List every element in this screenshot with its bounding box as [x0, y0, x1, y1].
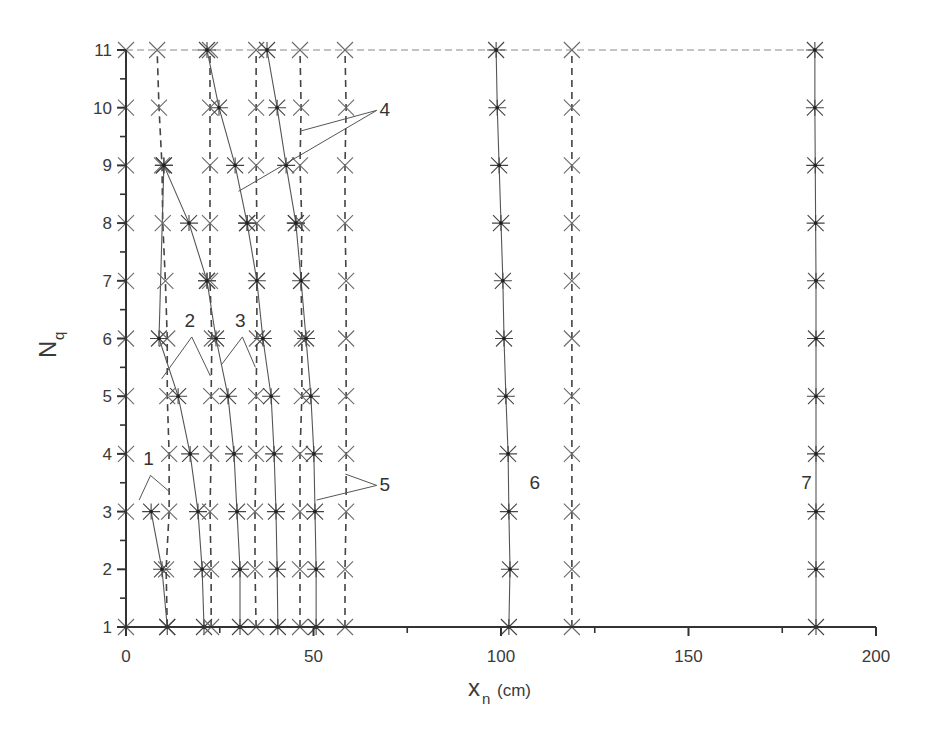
star-marker-center	[235, 510, 239, 514]
star-marker-center	[813, 164, 817, 168]
star-marker-center	[814, 568, 818, 572]
x-marker-icon	[564, 446, 580, 462]
callout-label: 6	[529, 472, 540, 493]
x-tick-label: 50	[304, 647, 323, 666]
x-marker-icon	[248, 100, 264, 116]
star-marker-center	[214, 337, 218, 341]
star-marker-center	[176, 394, 180, 398]
star-marker-center	[294, 221, 298, 225]
callout-label: 3	[235, 310, 246, 331]
star-marker-center	[314, 568, 318, 572]
y-axis-title: N q	[34, 332, 67, 358]
annotations: 1234567	[139, 99, 812, 500]
star-marker-center	[813, 106, 817, 110]
star-marker-center	[309, 394, 313, 398]
star-marker-center	[312, 452, 316, 456]
x-tick-label: 200	[862, 647, 890, 666]
star-marker-center	[504, 394, 508, 398]
x-marker-icon	[564, 388, 580, 404]
star-marker-center	[814, 394, 818, 398]
star-marker-center	[245, 221, 249, 225]
x-axis-title-main: x	[468, 674, 480, 701]
x-marker-icon	[248, 388, 264, 404]
star-marker-center	[313, 510, 317, 514]
star-marker-center	[157, 337, 161, 341]
star-marker-center	[272, 452, 276, 456]
y-tick-label: 2	[103, 560, 112, 579]
star-marker-center	[160, 568, 164, 572]
star-marker-center	[255, 279, 259, 283]
x-tick-label: 150	[674, 647, 702, 666]
y-tick-label: 8	[103, 214, 112, 233]
star-marker-center	[217, 106, 221, 110]
y-tick-label: 10	[93, 99, 112, 118]
y-axis-title-sub: q	[50, 332, 67, 340]
star-marker-center	[238, 568, 242, 572]
y-tick-label: 4	[103, 445, 112, 464]
x-marker-icon	[203, 388, 219, 404]
star-marker-center	[506, 452, 510, 456]
star-marker-center	[495, 106, 499, 110]
star-marker-center	[274, 510, 278, 514]
series-line	[267, 50, 296, 223]
star-marker-center	[149, 510, 153, 514]
x-marker-icon	[203, 446, 219, 462]
x-axis-title-sub: n	[482, 690, 490, 707]
y-tick-label: 7	[103, 272, 112, 291]
star-marker-center	[265, 48, 269, 52]
star-marker-center	[814, 452, 818, 456]
y-tick-label: 1	[103, 618, 112, 637]
x-marker-icon	[248, 446, 264, 462]
star-marker-center	[508, 568, 512, 572]
x-axis-title: x n (cm)	[468, 674, 531, 707]
star-marker-center	[502, 337, 506, 341]
x-ticks: 050100150200	[121, 627, 890, 666]
star-marker-center	[507, 510, 511, 514]
x-tick-label: 0	[121, 647, 130, 666]
star-marker-center	[261, 337, 265, 341]
star-marker-center	[275, 106, 279, 110]
star-marker-center	[494, 48, 498, 52]
axes: 050100150200 1234567891011	[93, 41, 890, 666]
y-tick-label: 3	[103, 503, 112, 522]
callout-leader-line	[151, 475, 170, 491]
callout-leader-line	[162, 337, 192, 379]
callout-leader-line	[222, 337, 243, 365]
star-marker-center	[205, 279, 209, 283]
plot-lines	[126, 50, 816, 627]
x-marker-icon	[564, 100, 580, 116]
star-marker-center	[162, 164, 166, 168]
plot-markers	[118, 42, 825, 635]
callout-leader-line	[302, 110, 377, 130]
chart: 1234567 050100150200 1234567891011 x n (…	[0, 0, 925, 736]
callout-label: 2	[184, 310, 195, 331]
star-marker-center	[304, 337, 308, 341]
x-tick-label: 100	[487, 647, 515, 666]
star-marker-center	[269, 394, 273, 398]
star-marker-center	[814, 337, 818, 341]
star-marker-center	[814, 221, 818, 225]
star-marker-center	[233, 164, 237, 168]
y-tick-label: 5	[103, 387, 112, 406]
callout-leader-line	[345, 474, 376, 485]
x-marker-icon	[338, 388, 354, 404]
callout-label: 4	[379, 99, 390, 120]
callout-leader-line	[317, 485, 377, 500]
x-marker-icon	[338, 446, 354, 462]
callout-leader-line	[139, 475, 150, 500]
star-marker-center	[499, 221, 503, 225]
star-marker-center	[501, 279, 505, 283]
y-tick-label: 11	[94, 41, 112, 60]
y-tick-label: 6	[103, 330, 112, 349]
star-marker-center	[497, 164, 501, 168]
star-marker-center	[188, 452, 192, 456]
star-marker-center	[814, 279, 818, 283]
x-marker-icon	[151, 100, 167, 116]
y-ticks: 1234567891011	[93, 41, 126, 637]
callout-label: 1	[143, 448, 154, 469]
star-marker-center	[299, 279, 303, 283]
star-marker-center	[275, 568, 279, 572]
callout-label: 7	[801, 472, 812, 493]
callout-label: 5	[379, 474, 390, 495]
y-tick-label: 9	[103, 156, 112, 175]
